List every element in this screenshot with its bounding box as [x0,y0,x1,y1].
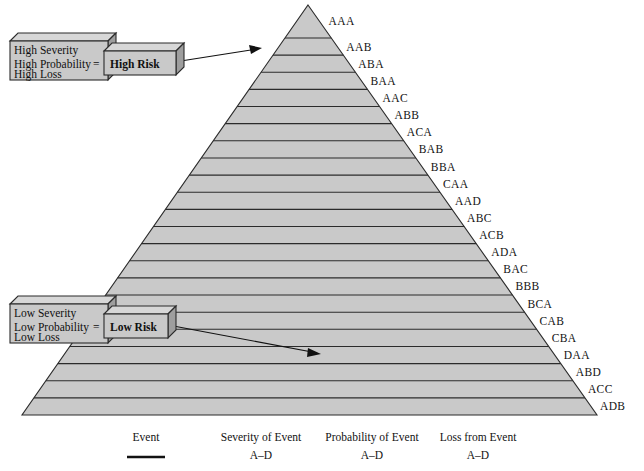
figure-canvas: AAAAABABABAAAACABBACABABBBACAAAADABCACBA… [0,0,644,471]
band-label-aab: AAB [346,41,371,53]
risk-pyramid-figure: AAAAABABABAAAACABBACABABBBACAAAADABCACBA… [0,0,644,471]
high-line1: High Severity [14,44,78,57]
band-label-abb: ABB [395,109,420,121]
low-line1: Low Severity [14,307,77,320]
band-label-aca: ACA [407,126,433,138]
band-label-baa: BAA [370,75,396,87]
band-label-caa: CAA [443,178,469,190]
high-equals: = [93,58,100,70]
band-label-daa: DAA [564,349,590,361]
legend-title-0: Event [133,431,161,443]
band-label-aba: ABA [358,58,384,70]
band-label-bca: BCA [527,298,552,310]
band-label-bbb: BBB [515,280,539,292]
band-label-bac: BAC [503,263,528,275]
legend-title-1: Severity of Event [221,431,302,444]
legend-title-2: Probability of Event [325,431,419,444]
band-label-aaa: AAA [329,15,355,27]
band-label-abd: ABD [576,366,601,378]
band-label-cba: CBA [552,332,577,344]
low-result: Low Risk [110,321,158,333]
legend: Event Severity of Event A–D Probability … [127,431,517,461]
band-label-aad: AAD [455,195,481,207]
band-label-cab: CAB [540,315,565,327]
high-result: High Risk [110,58,160,71]
high-line3: High Loss [14,68,62,81]
legend-title-3: Loss from Event [440,431,517,443]
band-label-bab: BAB [419,143,444,155]
low-equals: = [93,321,100,333]
band-label-abc: ABC [467,212,492,224]
legend-sub-3: A–D [467,449,489,461]
band-label-ada: ADA [491,246,517,258]
band-label-acb: ACB [479,229,504,241]
legend-sub-1: A–D [250,449,272,461]
legend-sub-2: A–D [361,449,383,461]
band-label-bba: BBA [431,161,456,173]
band-label-aac: AAC [383,92,408,104]
band-label-acc: ACC [588,383,613,395]
low-line3: Low Loss [14,331,60,343]
band-label-adb: ADB [600,400,625,412]
